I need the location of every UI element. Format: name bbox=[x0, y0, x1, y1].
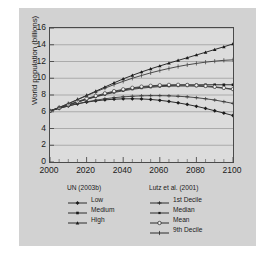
legend-item-label: 9th Decile bbox=[173, 226, 202, 233]
y-tick-label: 4 bbox=[30, 123, 46, 133]
y-tick-label: 14 bbox=[30, 39, 46, 49]
legend-marker-icon bbox=[149, 204, 170, 214]
legend-marker-icon bbox=[67, 204, 88, 214]
legend-group: UN (2003b)LowMediumHigh bbox=[67, 184, 114, 224]
x-tick-label: 2100 bbox=[215, 165, 249, 175]
x-tick-label: 2000 bbox=[32, 165, 66, 175]
y-tick-label: 8 bbox=[30, 89, 46, 99]
y-tick-label: 2 bbox=[30, 139, 46, 149]
legend-item-label: Low bbox=[91, 196, 103, 203]
plot-area bbox=[49, 27, 234, 163]
legend-marker-icon bbox=[67, 214, 88, 224]
legend-item-label: Mean bbox=[173, 216, 190, 223]
chart-legend: UN (2003b)LowMediumHighLutz et al. (2001… bbox=[49, 184, 239, 242]
legend-group: Lutz et al. (2001)1st DecileMedianMean9t… bbox=[149, 184, 202, 234]
x-tick-label: 2020 bbox=[69, 165, 103, 175]
legend-marker-icon bbox=[149, 224, 170, 234]
figure-panel: World population (billions) 024681012141… bbox=[19, 8, 256, 246]
legend-marker-icon bbox=[149, 214, 170, 224]
legend-group-title: UN (2003b) bbox=[67, 184, 114, 191]
legend-item-label: 1st Decile bbox=[173, 196, 202, 203]
legend-item[interactable]: Medium bbox=[67, 204, 114, 214]
legend-item[interactable]: Low bbox=[67, 194, 114, 204]
y-tick-label: 12 bbox=[30, 56, 46, 66]
legend-item[interactable]: Mean bbox=[149, 214, 202, 224]
legend-marker-icon bbox=[67, 194, 88, 204]
legend-marker-icon bbox=[149, 194, 170, 204]
x-tick-label: 2040 bbox=[105, 165, 139, 175]
x-tick-label: 2080 bbox=[178, 165, 212, 175]
chart-canvas bbox=[50, 28, 233, 162]
legend-group-title: Lutz et al. (2001) bbox=[149, 184, 202, 191]
legend-item[interactable]: High bbox=[67, 214, 114, 224]
y-tick-label: 16 bbox=[30, 22, 46, 32]
legend-item[interactable]: 9th Decile bbox=[149, 224, 202, 234]
legend-item-label: High bbox=[91, 216, 105, 223]
legend-item[interactable]: Median bbox=[149, 204, 202, 214]
legend-item-label: Medium bbox=[91, 206, 114, 213]
y-tick-label: 6 bbox=[30, 106, 46, 116]
x-tick-label: 2060 bbox=[142, 165, 176, 175]
legend-item-label: Median bbox=[173, 206, 195, 213]
y-tick-label: 10 bbox=[30, 72, 46, 82]
legend-item[interactable]: 1st Decile bbox=[149, 194, 202, 204]
